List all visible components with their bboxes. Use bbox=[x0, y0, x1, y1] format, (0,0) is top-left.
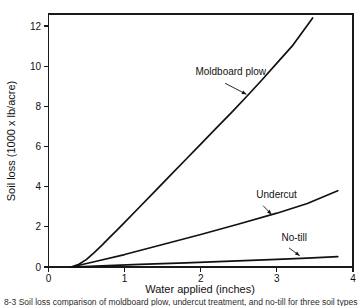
x-tick-label: 0 bbox=[46, 273, 52, 284]
x-tick-label: 1 bbox=[122, 273, 128, 284]
figure-container: 024681012 01234 Moldboard plowUndercutNo… bbox=[0, 0, 364, 306]
y-axis-ticks: 024681012 bbox=[30, 21, 49, 273]
y-axis-title: Soil loss (1000 x lb/acre) bbox=[5, 81, 17, 201]
y-tick-label: 6 bbox=[35, 141, 41, 152]
figure-caption-strip: 8-3 Soil loss comparison of moldboard pl… bbox=[0, 297, 364, 306]
series-label-no-till: No-till bbox=[281, 232, 307, 243]
y-tick-label: 12 bbox=[30, 21, 42, 32]
x-tick-label: 3 bbox=[274, 273, 280, 284]
series-label-undercut: Undercut bbox=[256, 189, 297, 200]
soil-loss-line-chart: 024681012 01234 Moldboard plowUndercutNo… bbox=[0, 0, 364, 306]
series-lines bbox=[71, 18, 337, 267]
y-tick-label: 10 bbox=[30, 61, 42, 72]
series-line-moldboard-plow bbox=[71, 18, 312, 267]
y-tick-label: 4 bbox=[35, 181, 41, 192]
series-line-undercut bbox=[71, 191, 337, 267]
x-tick-label: 4 bbox=[350, 273, 356, 284]
series-annotations: Moldboard plowUndercutNo-till bbox=[195, 66, 307, 256]
leader-arrowhead bbox=[295, 252, 300, 256]
axis-frame bbox=[49, 14, 354, 267]
x-axis-title: Water applied (inches) bbox=[145, 283, 255, 295]
x-axis-ticks: 01234 bbox=[46, 267, 357, 284]
figure-caption: 8-3 Soil loss comparison of moldboard pl… bbox=[4, 297, 362, 306]
y-tick-label: 0 bbox=[35, 262, 41, 273]
series-label-moldboard-plow: Moldboard plow bbox=[195, 66, 266, 77]
y-tick-label: 2 bbox=[35, 221, 41, 232]
plot-frame bbox=[49, 14, 354, 267]
y-tick-label: 8 bbox=[35, 101, 41, 112]
